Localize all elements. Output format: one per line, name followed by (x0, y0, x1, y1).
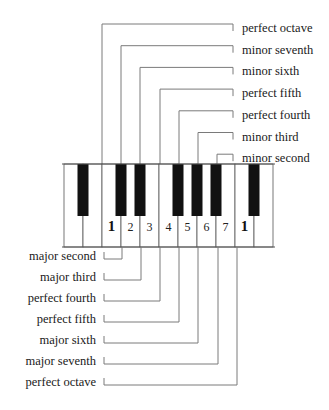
interval-bracket (121, 46, 233, 164)
black-key (173, 164, 184, 216)
upper-interval-brackets: perfect octaveminor seventhminor sixthpe… (102, 21, 314, 165)
interval-label: minor seventh (242, 43, 314, 57)
interval-bracket (140, 67, 233, 164)
scale-degree-label: 6 (204, 220, 210, 234)
interval-label: major seventh (26, 354, 97, 368)
interval-bracket (104, 247, 218, 364)
interval-bracket (104, 247, 160, 301)
interval-label: minor third (242, 130, 299, 144)
scale-degree-label: 2 (128, 220, 134, 234)
interval-label: perfect fifth (37, 312, 97, 326)
interval-bracket (104, 247, 198, 343)
interval-bracket (179, 111, 233, 164)
black-key (135, 164, 146, 216)
black-key (192, 164, 203, 216)
interval-diagram: perfect octaveminor seventhminor sixthpe… (0, 0, 329, 410)
upper-interval: minor second (217, 151, 310, 165)
interval-label: minor sixth (242, 64, 300, 78)
scale-degree-label: 1 (108, 218, 116, 234)
interval-label: perfect fourth (28, 291, 97, 305)
scale-degree-label: 1 (241, 218, 249, 234)
interval-label: major third (40, 270, 97, 284)
piano-keyboard: 12345671 (62, 164, 275, 247)
scale-degree-label: 7 (223, 220, 229, 234)
lower-interval-brackets: major secondmajor thirdperfect fourthper… (26, 247, 237, 389)
interval-label: perfect fifth (242, 86, 302, 100)
black-key (78, 164, 89, 216)
interval-bracket (102, 24, 233, 164)
interval-label: major second (29, 249, 97, 263)
interval-bracket (198, 133, 233, 165)
black-key (249, 164, 260, 216)
upper-interval: minor seventh (121, 43, 314, 164)
interval-label: perfect octave (242, 21, 313, 35)
interval-label: perfect fourth (242, 108, 311, 122)
interval-label: major sixth (39, 333, 96, 347)
interval-label: perfect octave (26, 375, 97, 389)
scale-degree-label: 3 (147, 220, 153, 234)
scale-degree-label: 4 (166, 220, 172, 234)
interval-bracket (217, 154, 233, 164)
black-key (211, 164, 222, 216)
black-key (116, 164, 127, 216)
lower-interval: major seventh (26, 247, 218, 368)
scale-degree-label: 5 (185, 220, 191, 234)
interval-bracket (160, 89, 233, 164)
interval-bracket (104, 247, 122, 259)
interval-label: minor second (242, 151, 310, 165)
lower-interval: major second (29, 247, 122, 263)
